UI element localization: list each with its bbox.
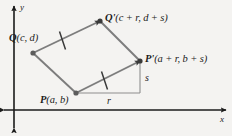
point-label-q: Q(c, d) [9,33,38,44]
point-label-pprime-name: P' [145,53,154,64]
y-axis-label: y [20,3,24,12]
side-q-to-p [33,53,76,93]
x-axis-label: x [220,115,224,124]
vertex-dots [30,18,142,95]
segment-label-s: s [145,73,149,83]
point-label-qprime: Q'(c + r, d + s) [105,13,168,24]
side-qprime-to-pprime [100,21,140,61]
point-label-p-coords: (a, b) [46,94,68,105]
point-label-qprime-coords: (c + r, d + s) [115,12,167,23]
point-label-pprime-coords: (a + r, b + s) [154,53,207,64]
vertex-dot-pprime [137,58,142,63]
vertex-dot-q [30,50,35,55]
axis-group [4,6,226,128]
parallelogram-sides [33,21,140,93]
point-label-p: P(a, b) [40,95,68,106]
vector-q-to-qprime [33,22,98,53]
translation-diagram: Q(c, d) Q'(c + r, d + s) P'(a + r, b + s… [0,0,232,136]
point-label-pprime: P'(a + r, b + s) [145,54,207,65]
vertex-dot-qprime [97,18,102,23]
segment-label-r: r [107,96,111,106]
vertex-dot-p [73,90,78,95]
point-label-qprime-name: Q' [105,12,115,23]
vector-p-to-pprime [76,62,138,93]
point-label-q-coords: (c, d) [16,32,38,43]
